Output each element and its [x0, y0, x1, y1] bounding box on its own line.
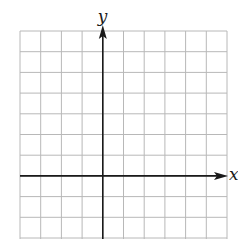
x-axis-label: x [229, 166, 238, 183]
coordinate-plane: x y [0, 0, 238, 239]
y-axis-label: y [98, 8, 108, 25]
grid [0, 0, 238, 239]
grid-lines [20, 31, 227, 239]
